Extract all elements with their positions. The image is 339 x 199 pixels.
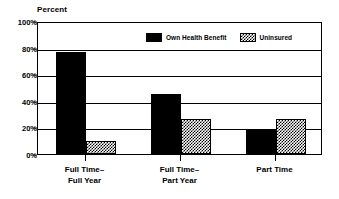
category-label-line2: Part Year — [160, 176, 199, 187]
bar-chart-figure: Percent 0%20%40%60%80%100% Full Time–Ful… — [0, 0, 339, 199]
category-label-line1: Full Time– — [65, 165, 104, 174]
category-label-line2: Full Year — [65, 176, 104, 187]
bar-uninsured — [276, 119, 306, 154]
y-axis-title: Percent — [37, 5, 67, 14]
chart-legend: Own Health BenefitUninsured — [146, 33, 292, 42]
x-axis-category-label: Full Time–Part Year — [160, 165, 199, 186]
solid-swatch — [146, 33, 162, 42]
x-axis-category-label: Part Time — [256, 165, 292, 176]
category-label-line1: Full Time– — [160, 165, 199, 174]
x-axis-tick-mark — [180, 155, 181, 161]
x-axis-category-label: Full Time–Full Year — [65, 165, 104, 186]
bar-own-health-benefit — [151, 94, 181, 154]
hatch-swatch — [240, 33, 256, 42]
category-label-line1: Part Time — [256, 165, 292, 174]
bar-own-health-benefit — [246, 130, 276, 154]
x-axis-tick-mark — [85, 155, 86, 161]
gridline — [38, 50, 321, 51]
x-axis-tick-mark — [275, 155, 276, 161]
y-axis-tick-labels: 0%20%40%60%80%100% — [0, 0, 37, 199]
legend-entry: Own Health Benefit — [146, 33, 227, 42]
bar-uninsured — [86, 141, 116, 154]
bar-uninsured — [181, 119, 211, 154]
legend-label: Own Health Benefit — [166, 34, 227, 41]
legend-entry: Uninsured — [240, 33, 293, 42]
legend-label: Uninsured — [260, 34, 293, 41]
bar-own-health-benefit — [56, 52, 86, 154]
